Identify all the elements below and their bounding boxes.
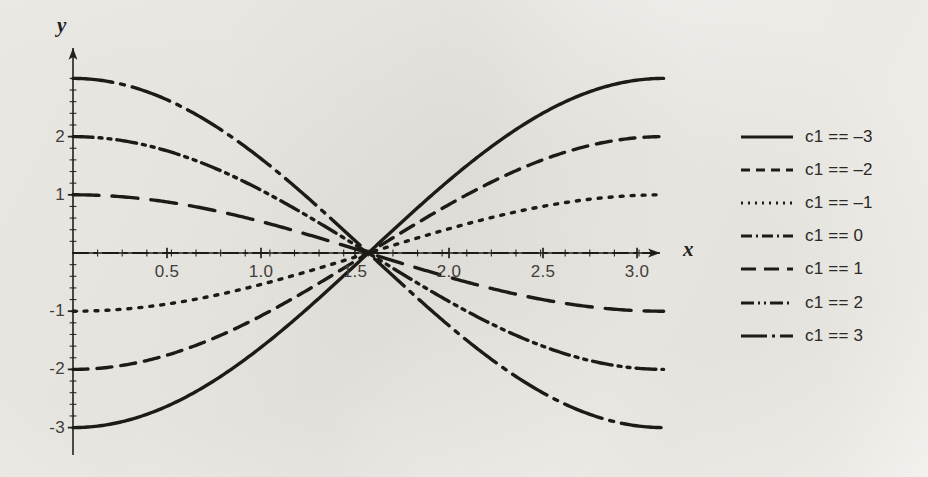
legend-line-sample (740, 130, 794, 144)
x-tick-label: 2.5 (531, 262, 556, 282)
legend-item-label: c1 == –2 (805, 160, 873, 180)
legend-item[interactable]: c1 == 1 (740, 253, 920, 286)
legend-line-sample (740, 329, 794, 343)
legend-item-label: c1 == 2 (805, 293, 863, 313)
legend-item-label: c1 == –3 (805, 127, 873, 147)
legend-item[interactable]: c1 == –3 (740, 120, 920, 153)
legend-line-sample (740, 229, 794, 243)
x-tick-label: 3.0 (625, 262, 650, 282)
legend-line-sample (740, 262, 794, 276)
legend-item[interactable]: c1 == –1 (740, 186, 920, 219)
x-tick-label: 1.0 (249, 262, 274, 282)
legend-item[interactable]: c1 == –2 (740, 153, 920, 186)
x-axis-title: x (683, 237, 694, 262)
legend-item[interactable]: c1 == 0 (740, 220, 920, 253)
y-tick-label: 2 (20, 127, 65, 147)
legend-item-label: c1 == 1 (805, 259, 863, 279)
legend-item[interactable]: c1 == 3 (740, 319, 920, 352)
y-axis-title: y (57, 13, 66, 38)
legend-item-label: c1 == 3 (805, 326, 863, 346)
legend-line-sample (740, 196, 794, 210)
legend-item-label: c1 == 0 (805, 226, 863, 246)
y-tick-label: -2 (20, 359, 65, 379)
y-tick-label: -1 (20, 301, 65, 321)
legend-item-label: c1 == –1 (805, 193, 873, 213)
chart-legend: c1 == –3c1 == –2c1 == –1c1 == 0c1 == 1c1… (740, 120, 920, 352)
legend-line-sample (740, 296, 794, 310)
legend-line-sample (740, 163, 794, 177)
y-tick-label: 1 (20, 185, 65, 205)
x-tick-label: 0.5 (155, 262, 180, 282)
axis-major-ticks (68, 137, 637, 428)
x-tick-label: 1.5 (343, 262, 368, 282)
y-tick-label: -3 (20, 418, 65, 438)
legend-item[interactable]: c1 == 2 (740, 286, 920, 319)
x-tick-label: 2.0 (437, 262, 462, 282)
plot-figure: y x 0.51.01.52.02.53.0 21-1-2-3 c1 == –3… (0, 0, 928, 477)
